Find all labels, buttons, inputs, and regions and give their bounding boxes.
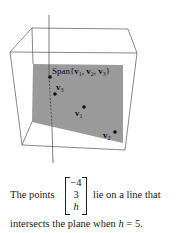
span-plane-figure: Span{v1, v2, v3} v3 v1 v2 [0,0,177,170]
point-v3 [53,92,57,96]
point-v1 [82,105,86,109]
vector-entries: −4 3 h [69,177,83,213]
plane-label: Span{v1, v2, v3} [52,66,110,77]
point-v2 [113,130,117,134]
intersection-dot [48,75,52,79]
caption-line-2: intersects the plane when h = 5. [10,217,143,230]
vector-entry-3: h [69,201,83,213]
vector-entry-1: −4 [69,177,83,189]
vector-entry-2: 3 [69,189,83,201]
column-vector: −4 3 h [65,176,87,214]
right-bracket [82,177,87,215]
caption-suffix: lie on a line that [93,188,161,201]
caption-prefix: The points [10,188,55,201]
